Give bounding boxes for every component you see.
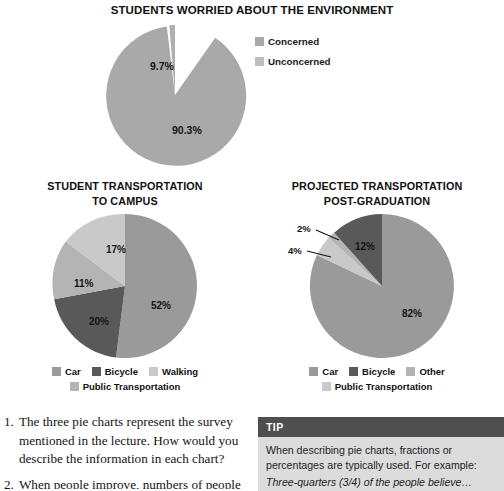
chart-campus-legend-row-2: Public Transportation bbox=[0, 381, 250, 392]
chart-postgrad-title-line2: POST-GRADUATION bbox=[252, 195, 502, 208]
legend-item-public-transportation[interactable]: Public Transportation bbox=[322, 381, 433, 392]
pie-label-car: 52% bbox=[151, 300, 171, 311]
chart-postgrad-legend-row-2: Public Transportation bbox=[252, 381, 502, 392]
legend-swatch-car bbox=[52, 367, 61, 376]
legend-label-public-transportation: Public Transportation bbox=[335, 381, 433, 392]
legend-item-car[interactable]: Car bbox=[52, 366, 81, 377]
pie-label-public-transportation: 12% bbox=[355, 241, 375, 252]
legend-label-car: Car bbox=[65, 366, 81, 377]
tip-box-example: Three-quarters (3/4) of the people belie… bbox=[266, 475, 496, 490]
legend-swatch-public-transportation bbox=[322, 382, 331, 391]
chart-postgrad-legend: Car Bicycle Other Public Transportation bbox=[252, 366, 502, 392]
pie-slice-concerned bbox=[106, 26, 246, 165]
legend-swatch-public-transportation bbox=[70, 382, 79, 391]
chart-postgrad-title-line1: PROJECTED TRANSPORTATION bbox=[252, 180, 502, 193]
chart-campus-pie: 52% 20% 11% 17% bbox=[0, 210, 250, 362]
legend-item-other[interactable]: Other bbox=[406, 366, 444, 377]
legend-swatch-unconcerned bbox=[255, 57, 264, 66]
question-1-number: 1. bbox=[4, 413, 14, 469]
tip-box-body: When describing pie charts, fractions or… bbox=[258, 437, 504, 490]
campus-pie-svg: 52% 20% 11% 17% bbox=[45, 210, 205, 362]
legend-label-public-transportation: Public Transportation bbox=[83, 381, 181, 392]
legend-swatch-car bbox=[309, 367, 318, 376]
chart-postgrad-legend-row-1: Car Bicycle Other bbox=[252, 366, 502, 377]
chart-environment: STUDENTS WORRIED ABOUT THE ENVIRONMENT 9… bbox=[0, 0, 504, 166]
pie-label-bicycle: 20% bbox=[89, 316, 109, 327]
chart-campus-title-line1: STUDENT TRANSPORTATION bbox=[0, 180, 250, 193]
chart-campus-title-line2: TO CAMPUS bbox=[0, 195, 250, 208]
legend-item-car[interactable]: Car bbox=[309, 366, 338, 377]
legend-label-walking: Walking bbox=[162, 366, 198, 377]
pie-label-car: 82% bbox=[402, 308, 422, 319]
pie-label-concerned: 90.3% bbox=[172, 124, 202, 136]
legend-item-walking[interactable]: Walking bbox=[149, 366, 198, 377]
chart-environment-title: STUDENTS WORRIED ABOUT THE ENVIRONMENT bbox=[0, 4, 504, 16]
legend-label-car: Car bbox=[322, 366, 338, 377]
chart-campus: STUDENT TRANSPORTATION TO CAMPUS 52% 20%… bbox=[0, 180, 250, 392]
question-2-number: 2. bbox=[4, 476, 14, 489]
legend-swatch-concerned bbox=[255, 37, 264, 46]
legend-label-bicycle: Bicycle bbox=[362, 366, 395, 377]
chart-campus-legend: Car Bicycle Walking Public Transportatio… bbox=[0, 366, 250, 392]
pie-label-walking: 17% bbox=[106, 244, 126, 255]
legend-label-unconcerned: Unconcerned bbox=[268, 56, 331, 67]
legend-item-concerned[interactable]: Concerned bbox=[255, 36, 331, 47]
exercise-question-list: 1. The three pie charts represent the su… bbox=[4, 413, 250, 491]
pie-slice-car bbox=[116, 214, 197, 358]
chart-environment-legend: Concerned Unconcerned bbox=[255, 36, 331, 76]
question-1-text: The three pie charts represent the surve… bbox=[19, 413, 250, 469]
pie-callout-label-bicycle: 4% bbox=[288, 245, 302, 256]
legend-item-bicycle[interactable]: Bicycle bbox=[92, 366, 138, 377]
tip-box-header: TIP bbox=[258, 417, 504, 437]
legend-item-unconcerned[interactable]: Unconcerned bbox=[255, 56, 331, 67]
postgrad-pie-svg: 82% 12% 2% 4% bbox=[282, 210, 472, 362]
tip-box-body-text: When describing pie charts, fractions or… bbox=[266, 443, 496, 472]
legend-item-public-transportation[interactable]: Public Transportation bbox=[70, 381, 181, 392]
legend-swatch-bicycle bbox=[349, 367, 358, 376]
legend-label-other: Other bbox=[419, 366, 444, 377]
exercise-question-1: 1. The three pie charts represent the su… bbox=[4, 413, 250, 469]
chart-campus-legend-row-1: Car Bicycle Walking bbox=[0, 366, 250, 377]
exercise-question-2: 2. When people improve, numbers of peopl… bbox=[4, 476, 250, 489]
legend-swatch-other bbox=[406, 367, 415, 376]
legend-label-bicycle: Bicycle bbox=[105, 366, 138, 377]
environment-pie-svg: 9.7% 90.3% bbox=[100, 24, 250, 166]
chart-environment-body: 9.7% 90.3% Concerned Unconcerned bbox=[0, 16, 504, 166]
chart-postgrad: PROJECTED TRANSPORTATION POST-GRADUATION… bbox=[252, 180, 502, 392]
legend-item-bicycle[interactable]: Bicycle bbox=[349, 366, 395, 377]
legend-label-concerned: Concerned bbox=[268, 36, 319, 47]
pie-label-public-transportation: 11% bbox=[74, 278, 94, 289]
legend-swatch-bicycle bbox=[92, 367, 101, 376]
tip-box: TIP When describing pie charts, fraction… bbox=[258, 417, 504, 491]
question-2-text: When people improve, numbers of people a… bbox=[19, 476, 250, 489]
pie-callout-label-other: 2% bbox=[297, 223, 311, 234]
legend-swatch-walking bbox=[149, 367, 158, 376]
chart-environment-pie: 9.7% 90.3% bbox=[100, 24, 250, 166]
chart-postgrad-pie: 82% 12% 2% 4% bbox=[252, 210, 502, 362]
pie-label-unconcerned: 9.7% bbox=[150, 60, 175, 72]
